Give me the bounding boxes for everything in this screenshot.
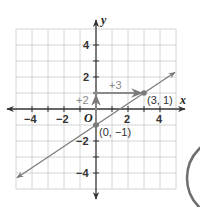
y-axis-label: y — [99, 13, 107, 27]
x-tick-label: 2 — [124, 113, 130, 125]
y-tick-label: −4 — [76, 167, 89, 179]
point-0-1 — [94, 91, 98, 95]
coordinate-plane: x y O −4 −2 2 4 4 2 −2 −4 +2 +3 (3, 1) (… — [0, 0, 200, 207]
x-tick-label: 4 — [156, 113, 163, 125]
point-0-neg1 — [93, 122, 99, 128]
origin-label: O — [84, 111, 93, 125]
rise-label: +2 — [76, 94, 89, 106]
point-label-3-1: (3, 1) — [147, 94, 173, 106]
run-label: +3 — [109, 79, 122, 91]
decorative-circle — [187, 137, 200, 207]
x-tick-label: −2 — [56, 113, 69, 125]
point-3-1 — [141, 90, 147, 96]
point-label-0-neg1: (0, −1) — [99, 126, 131, 138]
x-tick-label: −4 — [24, 113, 37, 125]
x-axis-label: x — [179, 93, 186, 107]
y-tick-label: 4 — [83, 39, 90, 51]
y-tick-label: 2 — [83, 71, 89, 83]
